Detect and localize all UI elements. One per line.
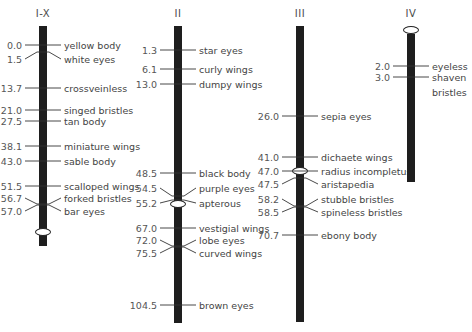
tick-lines bbox=[0, 0, 465, 332]
